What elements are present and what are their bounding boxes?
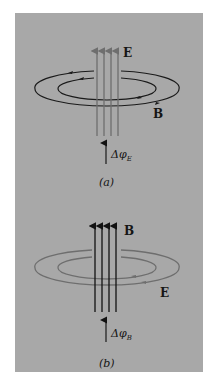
flux-subscript: E [127,155,132,163]
panel-a-flux-label: ΔφE [111,149,132,163]
panel-b-e-label: E [160,287,169,299]
flux-subscript: B [127,334,132,342]
panel-a-e-label: E [123,47,132,59]
panel-b-loops [35,250,179,285]
panel-a-caption: (a) [99,177,114,188]
panel-a-b-label: B [153,108,163,120]
diagram-drawing [0,0,211,388]
flux-symbol: Δφ [111,327,127,340]
flux-symbol: Δφ [111,148,127,161]
panel-a-loops [35,71,179,106]
panel-b-caption: (b) [99,358,115,369]
panel-b-b-label: B [124,225,134,237]
panel-b-flux-label: ΔφB [111,328,132,342]
panel-a-field-lines [97,51,118,136]
panel-b-field-lines [95,226,116,312]
